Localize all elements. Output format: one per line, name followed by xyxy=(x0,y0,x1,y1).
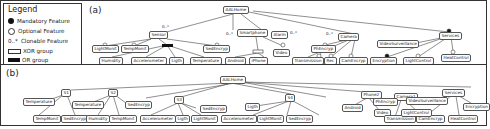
clonable-icon: 0..* xyxy=(8,38,18,44)
node-b-heatcontrol: HeatControl xyxy=(448,115,478,123)
node-b-accelerometer-4: Accelerometer xyxy=(221,115,257,123)
node-b-sedencryp-3: SedEncryp xyxy=(200,105,227,113)
node-b-temperature-1: Temperature xyxy=(23,98,55,106)
node-b-lightmonit-3: LightMonit xyxy=(191,115,218,123)
node-b-phencryp: PhEncryp xyxy=(373,98,398,106)
node-camera: Camera xyxy=(338,33,359,41)
xor-rect-icon xyxy=(8,49,21,54)
node-b-tempmonit-2: TempMonit xyxy=(109,115,137,123)
node-b-accelerometer-3: Accelerometer xyxy=(140,115,176,123)
node-b-sedencryp-4: SedEncryp xyxy=(286,115,313,123)
legend-clonable: 0..*Clonable Feature xyxy=(8,38,68,44)
node-tempmonit: TempMonit xyxy=(121,45,149,53)
node-b-sedencryp-2: SedEncryp xyxy=(125,101,152,109)
panel-b-label: (b) xyxy=(6,68,19,78)
node-b-temperature-2: Temperature xyxy=(72,101,104,109)
panel-a-label: (a) xyxy=(89,5,102,15)
node-b-encryption: Encryption xyxy=(463,103,490,111)
node-phencryp: PhEncryp xyxy=(311,45,336,53)
legend-xor: XOR group xyxy=(8,48,53,54)
node-videosurveillance: VideoSurveillance xyxy=(377,40,419,48)
filled-circle-icon xyxy=(8,18,14,24)
node-b-s2: S2 xyxy=(108,89,118,97)
legend-optional: Optional Feature xyxy=(8,28,65,35)
empty-circle-icon xyxy=(8,28,15,35)
node-smartphone: Smartphone xyxy=(237,29,268,37)
node-alarm: Alarm xyxy=(271,31,288,39)
node-b-ligth-4: Ligth xyxy=(245,103,260,111)
node-b-sedencryp-1: SedEncryp xyxy=(61,115,88,123)
node-b-tempmonit-1: TempMonit xyxy=(33,115,61,123)
node-heatcontrol: HeatControl xyxy=(441,54,471,62)
or-group-marker xyxy=(162,44,173,47)
node-sensor: Sensor xyxy=(149,31,168,39)
node-b-android: Android xyxy=(342,104,363,112)
node-b-lightcontrol: LightControl xyxy=(401,109,432,117)
node-sedencryp: SedEncryp xyxy=(203,45,230,53)
node-b-s3: S3 xyxy=(174,96,184,104)
node-b-lightmonit-4: LightMonit xyxy=(257,115,284,123)
node-b-s4: S4 xyxy=(285,94,295,102)
panel-a: (a) Legend Mandatory Feature Optional Fe… xyxy=(0,0,487,65)
node-b-videosurveillance: VideoSurveillance xyxy=(406,97,448,105)
node-b-services: Services xyxy=(442,89,465,97)
legend-title: Legend xyxy=(8,5,37,14)
node-b-ligth-3: Ligth xyxy=(175,115,190,123)
node-b-aalhome: AALHome xyxy=(220,76,246,84)
node-b-humidity-2: Humidity xyxy=(86,115,110,123)
panel-b: (b) AALHome S1 S2 S3 S4 Phone2 Camera1 S… xyxy=(0,64,487,126)
node-services: Services xyxy=(439,32,462,40)
node-aalhome: AALHome xyxy=(223,6,249,14)
node-video: Video xyxy=(273,49,290,57)
or-rect-icon xyxy=(8,58,20,62)
legend-mandatory: Mandatory Feature xyxy=(8,18,70,24)
node-b-s1: S1 xyxy=(61,89,71,97)
node-lightmonit: LightMonit xyxy=(92,45,119,53)
legend-or: OR group xyxy=(8,57,48,63)
xor-group-marker xyxy=(253,50,263,53)
legend: Legend Mandatory Feature Optional Featur… xyxy=(3,3,82,66)
